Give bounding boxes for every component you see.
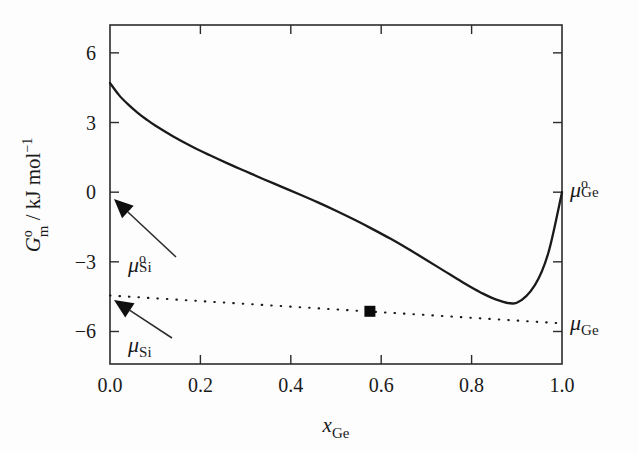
x-tick-label: 0.0	[98, 374, 123, 396]
y-tick-label: −6	[75, 320, 96, 342]
gibbs-energy-curve	[110, 83, 562, 304]
annotation-arrow-shaft	[128, 212, 176, 257]
label-mu-si-standard: μoSi	[127, 251, 152, 277]
label-mu-ge-standard: μoGe	[569, 176, 599, 202]
plot-frame	[110, 25, 562, 364]
axes-box	[110, 25, 562, 364]
tangent-point-marker	[364, 306, 375, 317]
x-tick-label: 0.2	[188, 374, 213, 396]
x-tick-label: 0.8	[459, 374, 484, 396]
label-mu-ge-partial: μGe	[569, 310, 599, 338]
chart-canvas: 0.00.20.40.60.81.0 630−3−6 μoSi μSi μoGe…	[0, 0, 638, 453]
x-tick-labels: 0.00.20.40.60.81.0	[98, 374, 575, 396]
figure-panel: 0.00.20.40.60.81.0 630−3−6 μoSi μSi μoGe…	[0, 0, 638, 453]
y-axis-title: Gom / kJ mol−1	[20, 138, 51, 253]
x-axis-title: xGe	[322, 413, 350, 441]
x-tick-label: 1.0	[550, 374, 575, 396]
annotation-labels: μoSi μSi μoGe μGe	[127, 176, 599, 360]
tick-marks	[110, 25, 562, 364]
x-tick-label: 0.4	[278, 374, 303, 396]
x-tick-label: 0.6	[369, 374, 394, 396]
y-tick-label: 0	[86, 181, 96, 203]
y-tick-label: 6	[86, 42, 96, 64]
y-tick-label: 3	[86, 112, 96, 134]
svg-text:Gom / kJ mol−1: Gom / kJ mol−1	[20, 138, 51, 253]
y-tick-labels: 630−3−6	[75, 42, 96, 343]
y-tick-label: −3	[75, 251, 96, 273]
annotation-arrow-head	[114, 300, 135, 318]
label-mu-si-partial: μSi	[127, 332, 152, 360]
